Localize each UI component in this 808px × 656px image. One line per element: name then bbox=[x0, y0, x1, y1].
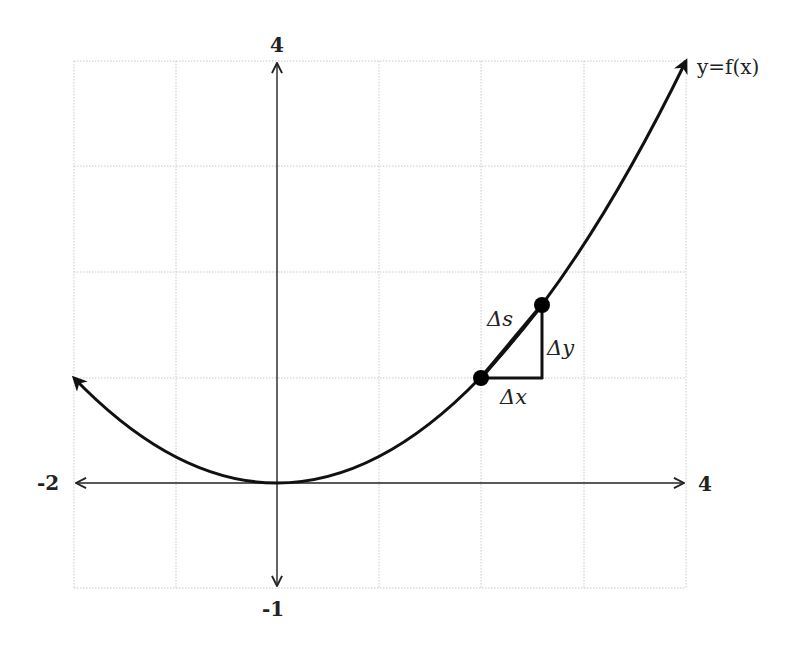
arc-length-diagram: 4 -1 -2 4 y=f(x) Δs Δy Δx bbox=[0, 0, 808, 656]
x-min-label: -2 bbox=[37, 471, 59, 495]
y-max-label: 4 bbox=[270, 33, 284, 57]
delta-y-label: Δy bbox=[546, 336, 575, 360]
y-min-label: -1 bbox=[262, 597, 284, 621]
delta-s-label: Δs bbox=[486, 307, 513, 331]
x-max-label: 4 bbox=[698, 472, 712, 496]
grid bbox=[74, 61, 686, 588]
point-start bbox=[473, 370, 489, 386]
delta-x-label: Δx bbox=[499, 385, 527, 409]
function-label: y=f(x) bbox=[696, 55, 759, 79]
point-end bbox=[534, 297, 550, 313]
